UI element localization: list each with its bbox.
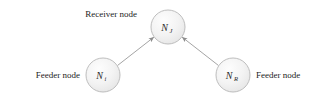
node-feeder-right-symbol: N bbox=[225, 70, 234, 81]
node-feeder-right-circle[interactable] bbox=[216, 58, 250, 92]
edge-right-to-receiver bbox=[182, 37, 218, 65]
node-feeder-left[interactable]: N i bbox=[86, 58, 120, 92]
caption-receiver-node: Receiver node bbox=[85, 9, 137, 19]
node-feeder-left-symbol: N bbox=[95, 70, 104, 81]
node-feeder-left-circle[interactable] bbox=[86, 58, 120, 92]
node-receiver-circle[interactable] bbox=[151, 10, 185, 44]
node-feeder-left-subscript: i bbox=[105, 75, 107, 82]
node-feeder-right-subscript: R bbox=[233, 75, 238, 82]
node-feeder-right[interactable]: N R bbox=[216, 58, 250, 92]
edge-left-to-receiver bbox=[118, 37, 154, 65]
caption-feeder-node-right: Feeder node bbox=[256, 70, 300, 80]
node-relation-diagram: N J N i N R Receiver node Feeder node Fe… bbox=[0, 0, 323, 100]
node-receiver[interactable]: N J bbox=[151, 10, 185, 44]
caption-feeder-node-left: Feeder node bbox=[36, 70, 80, 80]
diagram-canvas: N J N i N R Receiver node Feeder node Fe… bbox=[0, 0, 323, 100]
node-receiver-symbol: N bbox=[160, 22, 169, 33]
